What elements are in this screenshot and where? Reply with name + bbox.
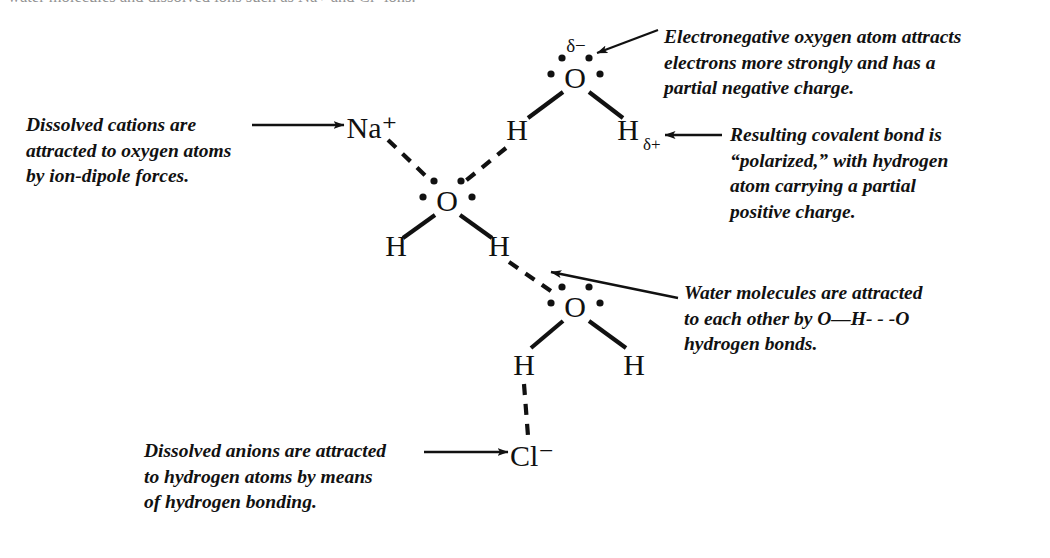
covalent-bond-O-H [528,92,563,118]
charge-subscript-delta-plus: δ+ [643,135,661,154]
atom-label-oxygen: O [564,290,586,323]
hydrogen-bond-centerH-bottomO [509,262,558,296]
lone-pair-dot [585,283,592,290]
lone-pair-dot [596,70,603,77]
atom-label-hydrogen: H [488,229,510,262]
lone-pair-dot [547,299,554,306]
covalent-bond-O-H [403,215,435,238]
atom-label-oxygen: O [436,184,458,217]
annotation-cations: Dissolved cations are attracted to oxyge… [26,112,326,189]
lone-pair-dot [547,70,554,77]
water-bottom-molecule: O H H [513,283,645,381]
hydrogen-bond-topH-centerO [463,148,506,183]
atom-label-hydrogen: H [506,113,528,146]
hydrogen-bond-bottomH-Cl [524,384,528,436]
annotation-anions: Dissolved anions are attracted to hydrog… [144,438,514,515]
lone-pair-dot [457,177,464,184]
lone-pair-dot [585,54,592,61]
leader-arrow-electronegative [597,30,658,53]
charge-label-delta-minus: δ− [566,35,586,56]
water-top-molecule: O δ− H H δ+ [506,35,660,154]
ion-label-chloride: Cl⁻ [510,439,554,472]
covalent-bond-O-H [531,321,563,348]
annotation-electronegative-oxygen: Electronegative oxygen atom attracts ele… [664,24,1042,101]
atom-label-oxygen: O [564,61,586,94]
covalent-bond-O-H [589,321,626,348]
atom-label-hydrogen: H [385,229,407,262]
atom-label-hydrogen-delta-plus: H [617,113,639,146]
ion-dipole-bond-Na-O [388,140,430,180]
atom-label-hydrogen: H [623,348,645,381]
lone-pair-dot [419,193,426,200]
lone-pair-dot [468,193,475,200]
annotation-polarized-bond: Resulting covalent bond is “polarized,” … [730,122,1030,224]
atom-label-hydrogen: H [513,348,535,381]
annotation-water-molecules: Water molecules are attracted to each ot… [684,280,984,357]
water-center-molecule: O H H [385,177,510,262]
lone-pair-dot [596,299,603,306]
figure-canvas: water molecules and dissolved ions such … [0,0,1050,558]
ion-label-sodium: Na⁺ [347,111,398,144]
